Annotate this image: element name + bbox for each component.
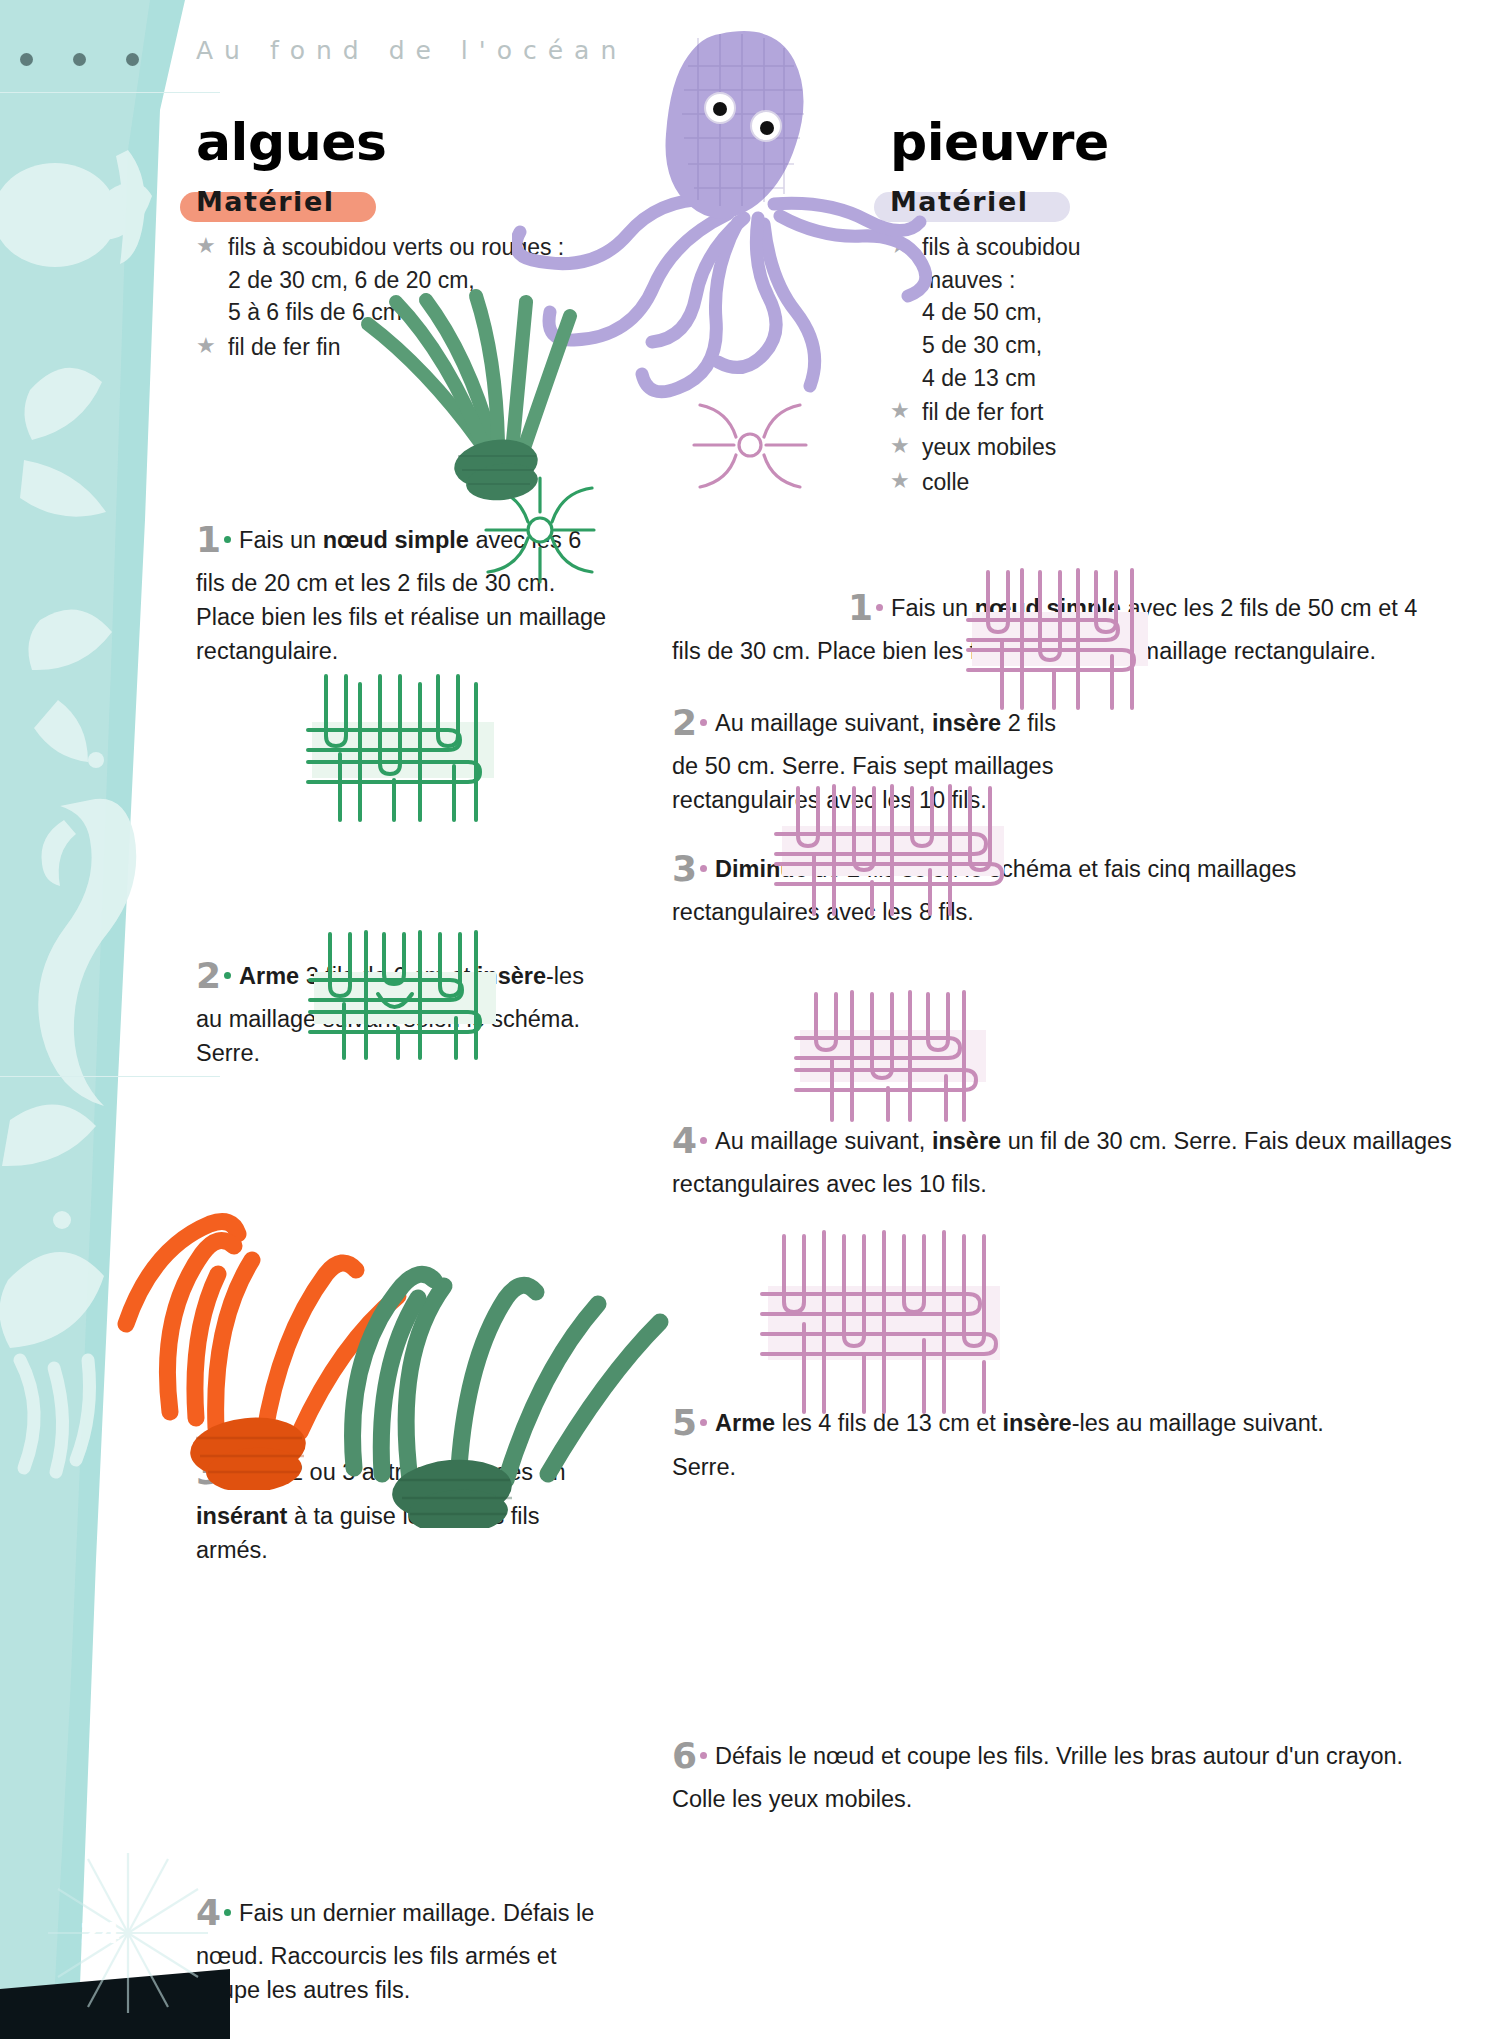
materiel-heading-pieuvre: Matériel bbox=[890, 186, 1028, 217]
rule-dot bbox=[20, 53, 33, 66]
step-algues-3: 3Fais 2 ou 3 autres maillages en inséran… bbox=[196, 1446, 616, 1566]
materials-list-algues: ★ fils à scoubidou verts ou rouges : 2 d… bbox=[196, 231, 616, 364]
star-icon: ★ bbox=[890, 231, 910, 261]
step-dot bbox=[700, 1752, 707, 1759]
step-number: 2 bbox=[672, 702, 697, 743]
step-dot bbox=[224, 972, 231, 979]
step-number: 2 bbox=[196, 955, 221, 996]
book-page: Au fond de l'océan algues Matériel ★ fil… bbox=[0, 0, 1498, 2039]
list-item: ★ colle bbox=[890, 466, 1472, 499]
step-number: 5 bbox=[672, 1402, 697, 1443]
materials-list-pieuvre: ★ fils à scoubidou mauves : 4 de 50 cm, … bbox=[890, 231, 1472, 498]
material-text: fil de fer fin bbox=[228, 331, 341, 364]
step-dot bbox=[876, 604, 883, 611]
page-number: 24 bbox=[72, 1905, 128, 1961]
list-item: ★ fils à scoubidou mauves : 4 de 50 cm, … bbox=[890, 231, 1472, 394]
diagram-algues-weave-1 bbox=[298, 670, 508, 830]
step-text: Fais 2 ou 3 autres maillages en insérant… bbox=[196, 1459, 566, 1562]
step-text: Fais un dernier maillage. Défais le nœud… bbox=[196, 1900, 594, 2003]
star-icon: ★ bbox=[196, 331, 216, 361]
top-dot-rule bbox=[20, 52, 170, 66]
star-icon: ★ bbox=[890, 431, 910, 461]
step-dot bbox=[700, 1419, 707, 1426]
star-icon: ★ bbox=[196, 231, 216, 261]
hairline-rule bbox=[0, 1076, 220, 1077]
step-dot bbox=[700, 1137, 707, 1144]
step-dot bbox=[224, 1909, 231, 1916]
materiel-label: Matériel bbox=[890, 186, 1028, 217]
page-title-pieuvre: pieuvre bbox=[890, 112, 1472, 172]
diagram-pieuvre-weave-3 bbox=[788, 988, 998, 1128]
step-text: Arme les 4 fils de 13 cm et insère-les a… bbox=[672, 1410, 1324, 1479]
materiel-heading-algues: Matériel bbox=[196, 186, 334, 217]
step-number: 6 bbox=[672, 1735, 697, 1776]
step-number: 4 bbox=[672, 1120, 697, 1161]
step-algues-4: 4Fais un dernier maillage. Défais le nœu… bbox=[196, 1887, 616, 2007]
material-text: fils à scoubidou mauves : 4 de 50 cm, 5 … bbox=[922, 231, 1081, 394]
material-text: yeux mobiles bbox=[922, 431, 1056, 464]
materiel-label: Matériel bbox=[196, 186, 334, 217]
step-dot bbox=[224, 1468, 231, 1475]
star-icon: ★ bbox=[890, 466, 910, 496]
diagram-pieuvre-weave-1 bbox=[960, 566, 1160, 716]
material-text: fil de fer fort bbox=[922, 396, 1043, 429]
list-item: ★ fils à scoubidou verts ou rouges : 2 d… bbox=[196, 231, 616, 329]
page-title-algues: algues bbox=[196, 112, 616, 172]
material-text: colle bbox=[922, 466, 969, 499]
step-number: 1 bbox=[196, 519, 221, 560]
list-item: ★ fil de fer fort bbox=[890, 396, 1472, 429]
step-text: Au maillage suivant, insère un fil de 30… bbox=[672, 1128, 1452, 1197]
diagram-pieuvre-weave-2 bbox=[768, 782, 1018, 922]
diagram-pieuvre-knot bbox=[690, 395, 810, 495]
step-dot bbox=[224, 536, 231, 543]
diagram-pieuvre-weave-4 bbox=[754, 1228, 1014, 1418]
step-number: 3 bbox=[196, 1451, 221, 1492]
rule-dot bbox=[73, 53, 86, 66]
material-text: fils à scoubidou verts ou rouges : 2 de … bbox=[228, 231, 564, 329]
list-item: ★ yeux mobiles bbox=[890, 431, 1472, 464]
step-number: 3 bbox=[672, 848, 697, 889]
step-pieuvre-6: 6Défais le nœud et coupe les fils. Vrill… bbox=[672, 1730, 1412, 1816]
step-dot bbox=[700, 719, 707, 726]
rule-dot bbox=[126, 53, 139, 66]
step-text: Défais le nœud et coupe les fils. Vrille… bbox=[672, 1743, 1403, 1812]
diagram-algues-knot bbox=[480, 470, 600, 590]
hairline-rule bbox=[0, 92, 220, 93]
step-number: 1 bbox=[848, 587, 873, 628]
list-item: ★ fil de fer fin bbox=[196, 331, 616, 364]
step-dot bbox=[700, 865, 707, 872]
diagram-algues-weave-2 bbox=[300, 928, 510, 1068]
step-pieuvre-4: 4Au maillage suivant, insère un fil de 3… bbox=[672, 1115, 1452, 1201]
star-icon: ★ bbox=[890, 396, 910, 426]
